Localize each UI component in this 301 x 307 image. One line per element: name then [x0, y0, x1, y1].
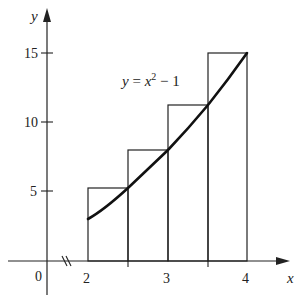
x-tick-label-3: 3	[163, 271, 170, 286]
rectangle-2	[128, 150, 168, 261]
y-tick-label-10: 10	[24, 115, 38, 130]
origin-label: 0	[35, 269, 42, 284]
x-tick-label-4: 4	[242, 271, 249, 286]
riemann-sum-figure: y x 15 10 5 0 2 3 4 y = x2 − 1	[0, 0, 301, 307]
y-tick-label-15: 15	[24, 46, 38, 61]
y-tick-label-5: 5	[30, 184, 37, 199]
y-axis-arrow-icon	[43, 8, 51, 22]
x-axis-label: x	[286, 270, 294, 286]
x-tick-label-2: 2	[83, 271, 90, 286]
x-ticks	[128, 261, 208, 267]
function-label: y = x2 − 1	[120, 71, 180, 89]
rectangle-4	[208, 53, 247, 261]
rectangle-1	[88, 188, 128, 261]
x-axis-arrow-icon	[276, 257, 290, 265]
y-axis-label: y	[29, 8, 38, 24]
